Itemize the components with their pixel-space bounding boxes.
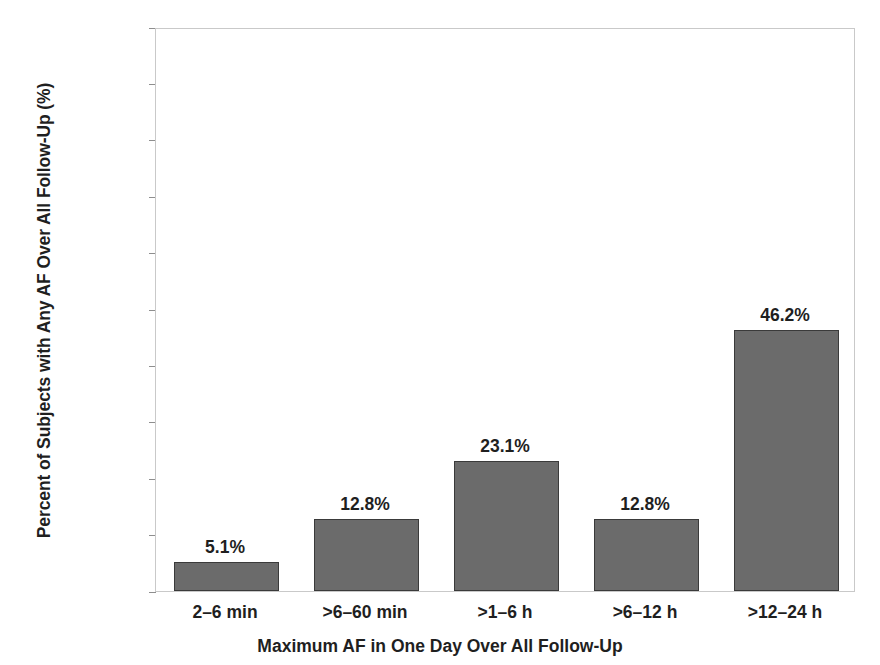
bar-value-label: 46.2% [760, 305, 810, 326]
x-axis-tick-label: 2–6 min [192, 602, 257, 623]
bar-value-label: 12.8% [620, 494, 670, 515]
bar-value-label: 23.1% [480, 436, 530, 457]
bar-chart-figure: Percent of Subjects with Any AF Over All… [0, 0, 880, 665]
bar-value-label: 12.8% [340, 494, 390, 515]
bar[interactable] [314, 519, 419, 591]
x-axis-tick-label: >6–60 min [322, 602, 407, 623]
bar[interactable] [594, 519, 699, 591]
x-axis-tick-label: >1–6 h [478, 602, 533, 623]
plot-area [155, 28, 855, 592]
x-axis-title: Maximum AF in One Day Over All Follow-Up [0, 636, 880, 657]
bar[interactable] [454, 461, 559, 591]
x-axis-tick-label: >12–24 h [748, 602, 822, 623]
y-axis-title: Percent of Subjects with Any AF Over All… [34, 11, 55, 611]
bar[interactable] [734, 330, 839, 591]
bar-value-label: 5.1% [205, 537, 245, 558]
bar[interactable] [174, 562, 279, 591]
x-axis-tick-label: >6–12 h [613, 602, 678, 623]
